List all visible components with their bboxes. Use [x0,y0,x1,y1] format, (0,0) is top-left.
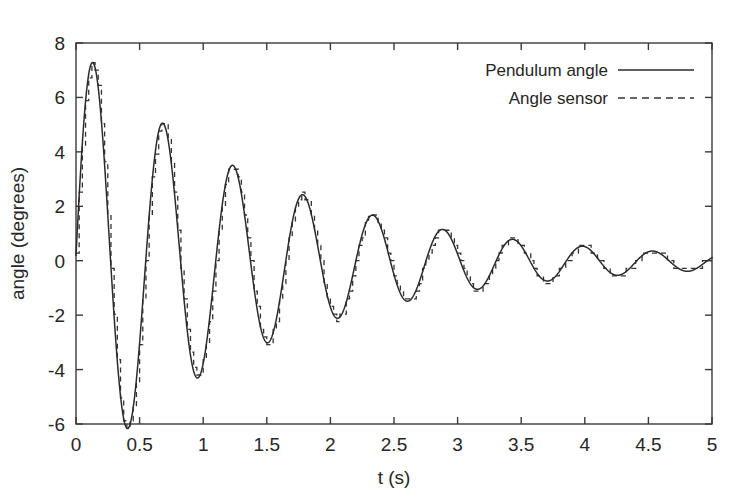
y-tick-label: -2 [48,305,65,326]
y-tick-label: -6 [48,414,65,435]
x-axis-title: t (s) [378,467,411,488]
chart-figure: 00.511.522.533.544.55 -6-4-202468 t (s) … [0,0,743,501]
x-tick-label: 0.5 [126,434,152,455]
chart-background [0,0,743,501]
x-tick-label: 4 [580,434,591,455]
x-tick-label: 1.5 [254,434,280,455]
y-tick-label: 8 [54,33,65,54]
x-tick-label: 4.5 [635,434,661,455]
legend-label: Pendulum angle [485,61,608,80]
y-tick-label: 0 [54,251,65,272]
x-tick-label: 1 [198,434,209,455]
y-axis-title: angle (degrees) [7,167,28,300]
x-tick-label: 3.5 [508,434,534,455]
x-tick-label: 3 [452,434,463,455]
x-tick-label: 2.5 [381,434,407,455]
y-tick-label: 2 [54,196,65,217]
y-tick-label: -4 [48,360,65,381]
y-tick-label: 6 [54,87,65,108]
x-tick-label: 0 [71,434,82,455]
x-tick-label: 5 [707,434,718,455]
x-tick-label: 2 [325,434,336,455]
pendulum-angle-chart: 00.511.522.533.544.55 -6-4-202468 t (s) … [0,0,743,501]
y-tick-label: 4 [54,142,65,163]
legend-label: Angle sensor [509,89,609,108]
